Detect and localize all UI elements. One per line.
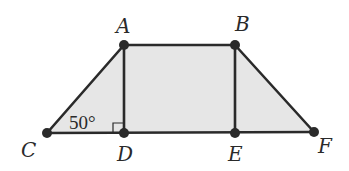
- label-e: E: [227, 142, 243, 166]
- point-b-dot: [230, 40, 240, 50]
- trapezoid-diagram: A B C D E F 50°: [0, 0, 349, 171]
- label-f: F: [317, 134, 333, 158]
- point-c-dot: [42, 128, 52, 138]
- point-d-dot: [119, 128, 129, 138]
- label-b: B: [234, 12, 250, 36]
- label-d: D: [116, 142, 133, 166]
- label-c: C: [21, 138, 36, 162]
- point-e-dot: [230, 128, 240, 138]
- label-a: A: [114, 14, 130, 38]
- angle-label-c: 50°: [69, 112, 96, 133]
- point-a-dot: [119, 40, 129, 50]
